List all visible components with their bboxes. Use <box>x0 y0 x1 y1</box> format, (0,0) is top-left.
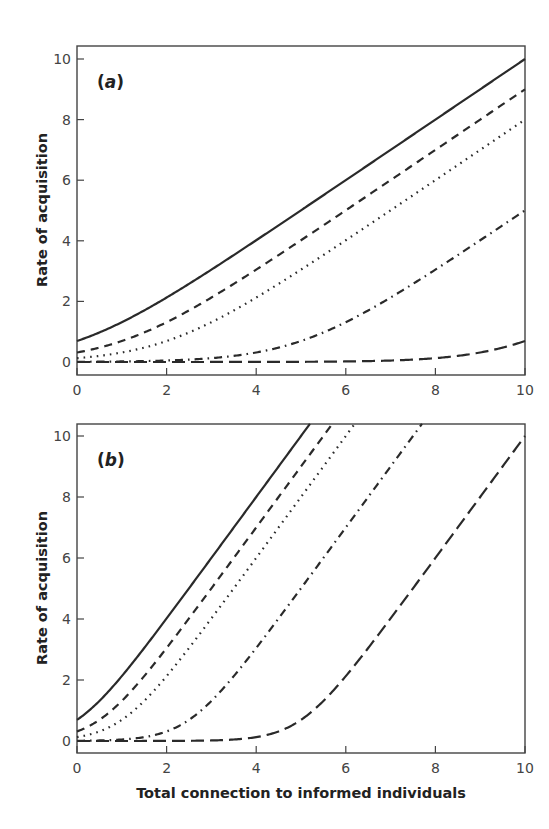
x-tick-label: 6 <box>341 382 350 398</box>
curve-dash-dot <box>77 424 422 741</box>
y-tick-label: 4 <box>62 611 71 627</box>
curve-dash-dot <box>77 210 525 361</box>
y-tick-label: 0 <box>62 733 71 749</box>
y-tick-label: 2 <box>62 672 71 688</box>
x-tick-label: 10 <box>516 382 534 398</box>
panel-a: 02468100246810 (a) Rate of acquisition <box>34 46 534 398</box>
figure: 02468100246810 (a) Rate of acquisition 0… <box>0 0 549 829</box>
y-tick-label: 10 <box>53 51 71 67</box>
x-tick-label: 2 <box>162 760 171 776</box>
curve-solid <box>77 59 525 341</box>
curve-dotted <box>77 120 525 359</box>
panel-label-b: (b) <box>97 450 125 470</box>
x-axis-title: Total connection to informed individuals <box>136 785 466 801</box>
x-tick-label: 8 <box>431 760 440 776</box>
x-tick-label: 0 <box>73 382 82 398</box>
x-tick-label: 8 <box>431 382 440 398</box>
panel-label-a: (a) <box>97 72 124 92</box>
y-tick-label: 2 <box>62 293 71 309</box>
x-tick-label: 2 <box>162 382 171 398</box>
x-tick-label: 6 <box>341 760 350 776</box>
x-tick-label: 4 <box>252 760 261 776</box>
y-tick-label: 8 <box>62 112 71 128</box>
y-tick-label: 8 <box>62 489 71 505</box>
curves-a <box>77 59 525 362</box>
curve-short-dash <box>77 89 525 352</box>
y-tick-label: 4 <box>62 233 71 249</box>
x-tick-label: 10 <box>516 760 534 776</box>
panel-b: 02468100246810 (b) Rate of acquisition T… <box>34 424 534 801</box>
y-tick-label: 10 <box>53 428 71 444</box>
x-tick-label: 0 <box>73 760 82 776</box>
curve-long-dash <box>77 341 525 362</box>
y-axis-title-b: Rate of acquisition <box>34 511 50 665</box>
y-axis-title-a: Rate of acquisition <box>34 133 50 287</box>
x-tick-label: 4 <box>252 382 261 398</box>
y-tick-label: 0 <box>62 354 71 370</box>
y-tick-label: 6 <box>62 172 71 188</box>
y-tick-label: 6 <box>62 550 71 566</box>
curve-long-dash <box>77 436 525 741</box>
curves-b <box>77 424 525 741</box>
curve-dotted <box>77 424 355 737</box>
plot-frame-b <box>77 424 525 753</box>
